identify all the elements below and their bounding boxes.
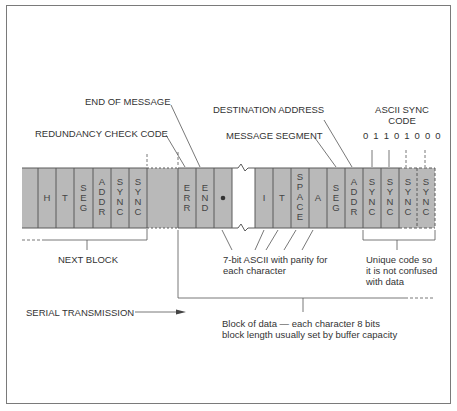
cell-t: T: [273, 193, 291, 203]
cell-a: A: [309, 193, 327, 203]
cell-sync: SYNC: [363, 177, 381, 217]
cell-err: ERR: [178, 183, 196, 213]
label-serial-transmission: SERIAL TRANSMISSION: [26, 307, 134, 318]
label-end-of-message: END OF MESSAGE: [85, 96, 171, 107]
cell-sync-optional: SYNC: [399, 177, 417, 217]
cell-addr: ADDR: [93, 177, 111, 217]
cell-seg: SEG: [74, 183, 93, 213]
cell-end: END: [196, 183, 214, 213]
cell-h: H: [38, 193, 56, 203]
label-message-segment: MESSAGE SEGMENT: [226, 130, 323, 141]
cell-sync: SYNC: [129, 177, 147, 217]
cell-seg: SEG: [327, 183, 345, 213]
label-unique-code: Unique code so it is not confused with d…: [366, 254, 437, 287]
cell-t: T: [56, 193, 74, 203]
label-destination-address: DESTINATION ADDRESS: [213, 104, 324, 115]
cell-sync: SYNC: [111, 177, 129, 217]
cell-i: I: [255, 193, 273, 203]
label-sync-bits: 0 1 1 0 1 0 0 0: [363, 130, 442, 141]
cell-space: SPACE: [291, 172, 309, 222]
cell-sync: SYNC: [381, 177, 399, 217]
label-ascii-sync-code: ASCII SYNC CODE: [372, 104, 432, 126]
cell-sync-optional: SYNC: [417, 177, 435, 217]
label-next-block: NEXT BLOCK: [58, 254, 118, 265]
label-redundancy-check-code: REDUNDANCY CHECK CODE: [35, 128, 168, 139]
bullet-icon: [221, 196, 226, 201]
label-ascii-parity: 7-bit ASCII with parity for each charact…: [223, 254, 328, 276]
cell-addr: ADDR: [345, 177, 363, 217]
label-block-of-data: Block of data — each character 8 bits bl…: [222, 318, 397, 340]
arrow-right-icon: [176, 310, 186, 315]
